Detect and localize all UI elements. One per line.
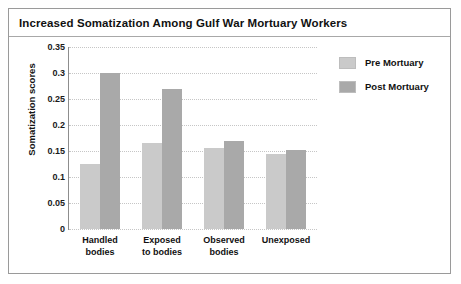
x-axis-label-line: to bodies	[131, 247, 193, 259]
bar-post-mortuary[interactable]	[286, 150, 306, 229]
chart-legend: Pre MortuaryPost Mortuary	[339, 56, 444, 104]
chart-card: Increased Somatization Among Gulf War Mo…	[8, 8, 451, 274]
legend-label: Pre Mortuary	[365, 57, 424, 68]
gridline	[69, 229, 317, 230]
bars-layer	[69, 47, 317, 229]
plot-area	[69, 47, 317, 229]
legend-item[interactable]: Pre Mortuary	[339, 56, 444, 70]
bar-pre-mortuary[interactable]	[142, 143, 162, 229]
bar-group	[142, 47, 182, 229]
bar-group	[80, 47, 120, 229]
bar-post-mortuary[interactable]	[224, 141, 244, 229]
bar-group	[204, 47, 244, 229]
x-axis-label-line: Handled	[69, 235, 131, 247]
x-axis-label-line: bodies	[193, 247, 255, 259]
bar-pre-mortuary[interactable]	[80, 164, 100, 229]
legend-label: Post Mortuary	[365, 81, 429, 92]
x-axis-label-line: Exposed	[131, 235, 193, 247]
legend-item[interactable]: Post Mortuary	[339, 80, 444, 94]
legend-swatch-icon	[339, 81, 356, 93]
x-axis-label-line: Unexposed	[255, 235, 317, 247]
bar-pre-mortuary[interactable]	[204, 148, 224, 229]
bar-pre-mortuary[interactable]	[266, 154, 286, 229]
x-axis-label: Handledbodies	[69, 235, 131, 258]
bar-group	[266, 47, 306, 229]
bar-post-mortuary[interactable]	[162, 89, 182, 229]
x-axis-label: Exposedto bodies	[131, 235, 193, 258]
y-axis-tick-label: 0.05	[25, 199, 65, 208]
x-axis-label: Observedbodies	[193, 235, 255, 258]
title-divider	[9, 36, 450, 37]
x-axis-category-labels: HandledbodiesExposedto bodiesObservedbod…	[69, 235, 317, 269]
y-axis-title: Somatization scores	[26, 45, 37, 175]
bar-post-mortuary[interactable]	[100, 73, 120, 229]
x-axis-label: Unexposed	[255, 235, 317, 247]
y-axis-tick-label: 0	[25, 225, 65, 234]
x-axis-label-line: Observed	[193, 235, 255, 247]
x-axis-label-line: bodies	[69, 247, 131, 259]
chart-title: Increased Somatization Among Gulf War Mo…	[19, 17, 439, 29]
legend-swatch-icon	[339, 57, 356, 69]
